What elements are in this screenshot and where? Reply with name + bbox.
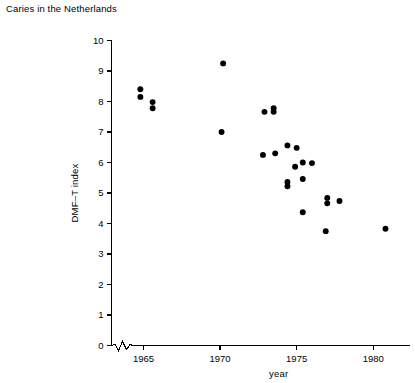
data-points-layer bbox=[137, 60, 388, 234]
x-axis-line-with-break bbox=[112, 342, 411, 351]
data-point bbox=[294, 145, 300, 151]
data-point bbox=[337, 198, 343, 204]
y-axis-title: DMF–T index bbox=[69, 163, 80, 222]
data-point bbox=[324, 200, 330, 206]
y-tick-label: 3 bbox=[98, 248, 103, 259]
data-point bbox=[271, 109, 277, 115]
data-point bbox=[150, 105, 156, 111]
y-tick-label: 6 bbox=[98, 157, 103, 168]
data-point bbox=[219, 129, 225, 135]
data-point bbox=[285, 142, 291, 148]
x-axis-title: year bbox=[269, 368, 288, 379]
data-point bbox=[220, 60, 226, 66]
data-point bbox=[309, 160, 315, 166]
data-point bbox=[260, 152, 266, 158]
data-point bbox=[383, 226, 389, 232]
y-tick-label: 2 bbox=[98, 279, 103, 290]
caries-scatter-figure: Caries in the Netherlands 01234567891019… bbox=[0, 0, 415, 383]
y-tick-label: 5 bbox=[98, 187, 103, 198]
scatter-plot-canvas: 0123456789101965197019751980 yearDMF–T i… bbox=[0, 0, 415, 383]
x-tick-label: 1975 bbox=[286, 353, 307, 364]
y-tick-label: 1 bbox=[98, 309, 103, 320]
y-tick-label: 4 bbox=[98, 218, 103, 229]
y-tick-label: 10 bbox=[93, 35, 104, 46]
data-point bbox=[137, 86, 143, 92]
y-tick-label: 0 bbox=[98, 340, 103, 351]
data-point bbox=[324, 195, 330, 201]
data-point bbox=[272, 150, 278, 156]
data-point bbox=[262, 109, 268, 115]
data-point bbox=[323, 228, 329, 234]
data-point bbox=[300, 209, 306, 215]
plot-axes bbox=[112, 41, 411, 351]
x-tick-label: 1970 bbox=[209, 353, 230, 364]
data-point bbox=[300, 176, 306, 182]
data-point bbox=[292, 164, 298, 170]
y-tick-label: 9 bbox=[98, 65, 103, 76]
figure-caption: Caries in the Netherlands bbox=[6, 3, 117, 15]
data-point bbox=[137, 94, 143, 100]
data-point bbox=[150, 99, 156, 105]
data-point bbox=[285, 183, 291, 189]
x-tick-label: 1965 bbox=[133, 353, 154, 364]
axis-ticks bbox=[107, 41, 373, 351]
x-tick-label: 1980 bbox=[363, 353, 384, 364]
y-tick-label: 7 bbox=[98, 126, 103, 137]
data-point bbox=[300, 160, 306, 166]
y-tick-label: 8 bbox=[98, 96, 103, 107]
